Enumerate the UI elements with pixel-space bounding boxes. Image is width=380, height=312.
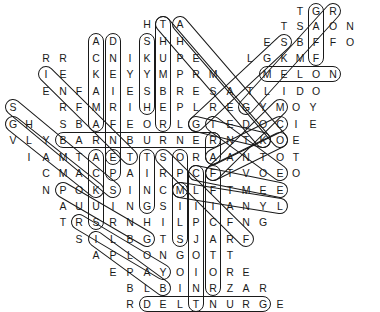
grid-letter[interactable]: A	[223, 84, 237, 98]
grid-letter[interactable]: T	[256, 150, 270, 164]
grid-letter[interactable]: B	[156, 84, 170, 98]
grid-letter[interactable]: H	[173, 34, 187, 48]
grid-letter[interactable]: Y	[140, 67, 154, 81]
grid-letter[interactable]: K	[277, 51, 291, 65]
grid-letter[interactable]: A	[239, 281, 253, 295]
grid-letter[interactable]: T	[206, 117, 220, 131]
grid-letter[interactable]: H	[140, 17, 154, 31]
grid-letter[interactable]: S	[293, 19, 307, 33]
grid-letter[interactable]: P	[106, 248, 120, 262]
grid-letter[interactable]: I	[289, 117, 303, 131]
grid-letter[interactable]: O	[173, 265, 187, 279]
grid-letter[interactable]: L	[106, 232, 120, 246]
grid-letter[interactable]: E	[189, 133, 203, 147]
grid-letter[interactable]: I	[106, 199, 120, 213]
grid-letter[interactable]: I	[189, 265, 203, 279]
grid-letter[interactable]: Z	[223, 281, 237, 295]
grid-letter[interactable]: I	[123, 51, 137, 65]
grid-letter[interactable]: D	[293, 84, 307, 98]
grid-letter[interactable]: I	[123, 183, 137, 197]
grid-letter[interactable]: E	[273, 166, 287, 180]
grid-letter[interactable]: T	[189, 297, 203, 311]
grid-letter[interactable]: S	[140, 34, 154, 48]
grid-letter[interactable]: C	[189, 166, 203, 180]
grid-letter[interactable]: U	[140, 133, 154, 147]
grid-letter[interactable]: G	[239, 100, 253, 114]
grid-letter[interactable]: S	[6, 100, 20, 114]
grid-letter[interactable]: T	[223, 248, 237, 262]
grid-letter[interactable]: D	[140, 297, 154, 311]
grid-letter[interactable]: N	[123, 215, 137, 229]
grid-letter[interactable]: O	[173, 150, 187, 164]
grid-letter[interactable]: O	[256, 166, 270, 180]
grid-letter[interactable]: O	[140, 248, 154, 262]
grid-letter[interactable]: E	[273, 297, 287, 311]
grid-letter[interactable]: G	[309, 4, 323, 18]
grid-letter[interactable]: B	[123, 281, 137, 295]
grid-letter[interactable]: V	[6, 133, 20, 147]
grid-letter[interactable]: R	[206, 100, 220, 114]
grid-letter[interactable]: C	[156, 183, 170, 197]
grid-letter[interactable]: T	[293, 4, 307, 18]
grid-letter[interactable]: P	[173, 51, 187, 65]
grid-letter[interactable]: G	[256, 297, 270, 311]
grid-letter[interactable]: T	[123, 150, 137, 164]
grid-letter[interactable]: O	[343, 35, 357, 49]
grid-letter[interactable]: F	[326, 35, 340, 49]
grid-letter[interactable]: F	[206, 183, 220, 197]
grid-letter[interactable]: T	[140, 150, 154, 164]
grid-letter[interactable]: R	[106, 215, 120, 229]
grid-letter[interactable]: E	[223, 100, 237, 114]
grid-letter[interactable]: L	[243, 51, 257, 65]
grid-letter[interactable]: J	[189, 232, 203, 246]
grid-letter[interactable]: Y	[156, 265, 170, 279]
grid-letter[interactable]: P	[173, 100, 187, 114]
grid-letter[interactable]: M	[293, 51, 307, 65]
grid-letter[interactable]: I	[39, 67, 53, 81]
grid-letter[interactable]: E	[289, 133, 303, 147]
grid-letter[interactable]: N	[39, 183, 53, 197]
grid-letter[interactable]: A	[206, 232, 220, 246]
grid-letter[interactable]: O	[72, 183, 86, 197]
grid-letter[interactable]: G	[189, 117, 203, 131]
grid-letter[interactable]: A	[309, 19, 323, 33]
grid-letter[interactable]: E	[306, 117, 320, 131]
grid-letter[interactable]: L	[173, 215, 187, 229]
grid-letter[interactable]: I	[206, 199, 220, 213]
grid-letter[interactable]: F	[239, 232, 253, 246]
grid-letter[interactable]: T	[156, 232, 170, 246]
grid-letter[interactable]: S	[140, 84, 154, 98]
grid-letter[interactable]: L	[22, 133, 36, 147]
grid-letter[interactable]: O	[256, 117, 270, 131]
grid-letter[interactable]: H	[140, 100, 154, 114]
grid-letter[interactable]: A	[89, 117, 103, 131]
grid-letter[interactable]: R	[72, 215, 86, 229]
grid-letter[interactable]: T	[223, 183, 237, 197]
grid-letter[interactable]: D	[106, 34, 120, 48]
grid-letter[interactable]: A	[173, 17, 187, 31]
grid-letter[interactable]: E	[123, 84, 137, 98]
grid-letter[interactable]: V	[239, 166, 253, 180]
grid-letter[interactable]: M	[56, 150, 70, 164]
grid-letter[interactable]: S	[156, 150, 170, 164]
grid-letter[interactable]: A	[72, 133, 86, 147]
grid-letter[interactable]: S	[206, 84, 220, 98]
grid-letter[interactable]: E	[106, 67, 120, 81]
grid-letter[interactable]: B	[156, 281, 170, 295]
grid-letter[interactable]: R	[89, 133, 103, 147]
grid-letter[interactable]: E	[106, 265, 120, 279]
grid-letter[interactable]: D	[239, 117, 253, 131]
grid-letter[interactable]: C	[89, 166, 103, 180]
grid-letter[interactable]: N	[206, 297, 220, 311]
grid-letter[interactable]: F	[206, 166, 220, 180]
grid-letter[interactable]: C	[206, 215, 220, 229]
grid-letter[interactable]: I	[277, 84, 291, 98]
grid-letter[interactable]: U	[156, 51, 170, 65]
grid-letter[interactable]: N	[189, 281, 203, 295]
grid-letter[interactable]: K	[256, 133, 270, 147]
grid-letter[interactable]: O	[273, 133, 287, 147]
grid-letter[interactable]: N	[156, 248, 170, 262]
grid-letter[interactable]: T	[72, 150, 86, 164]
grid-letter[interactable]: C	[89, 51, 103, 65]
grid-letter[interactable]: O	[189, 248, 203, 262]
